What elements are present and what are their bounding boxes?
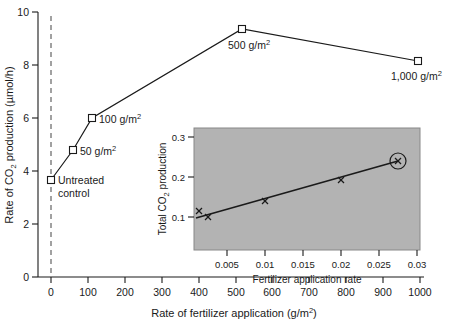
x-tick-label-700: 700: [300, 286, 318, 298]
data-point-label-50-text: 50 g/m: [80, 145, 112, 157]
inset-plot: 0.3 0.2 0.1 0.005 0.01 0.015 0.02 0.025 …: [157, 128, 426, 285]
y-axis-ticks: [32, 12, 38, 277]
y-tick-label-8: 8: [23, 59, 29, 71]
y-tick-label-6: 6: [23, 112, 29, 124]
data-point-label-untreated-line1: Untreated: [58, 174, 104, 186]
x-axis-title-suffix: ): [313, 307, 317, 319]
inset-x-tick-label-0005: 0.005: [215, 259, 239, 270]
x-tick-label-200: 200: [116, 286, 134, 298]
figure-container: 0 2 4 6 8 10 0 100 200: [0, 0, 460, 324]
data-point-label-1000: 1,000 g/m2: [391, 69, 442, 82]
data-point-label-500-sup: 2: [266, 38, 270, 47]
data-point-marker-1000[interactable]: [415, 58, 422, 65]
data-point-marker-untreated[interactable]: [48, 177, 55, 184]
inset-y-tick-label-02: 0.2: [172, 172, 185, 183]
data-point-label-500-text: 500 g/m: [228, 39, 266, 51]
data-point-label-500: 500 g/m2: [228, 38, 270, 51]
y-axis-title: Rate of CO2 production (µmol/h): [3, 66, 18, 223]
y-tick-label-10: 10: [17, 6, 29, 18]
data-point-label-100-text: 100 g/m: [99, 113, 137, 125]
data-point-marker-500[interactable]: [239, 26, 246, 33]
y-axis-title-rest: production (µmol/h): [3, 66, 15, 164]
chart-svg: 0 2 4 6 8 10 0 100 200: [0, 0, 460, 324]
data-point-marker-100[interactable]: [89, 115, 96, 122]
y-tick-label-4: 4: [23, 165, 29, 177]
y-tick-label-0: 0: [23, 271, 29, 283]
inset-x-tick-label-0015: 0.015: [291, 259, 315, 270]
data-point-label-1000-text: 1,000 g/m: [391, 70, 438, 82]
inset-y-axis-title-rest: production: [157, 143, 168, 192]
y-tick-label-2: 2: [23, 218, 29, 230]
inset-y-axis-title: Total CO2 production: [157, 143, 171, 236]
x-tick-label-0: 0: [48, 286, 54, 298]
x-axis-title-main: Rate of fertilizer application (g/m: [151, 307, 309, 319]
inset-y-tick-label-03: 0.3: [172, 132, 185, 143]
inset-x-tick-label-003: 0.03: [408, 259, 427, 270]
data-point-label-1000-sup: 2: [438, 69, 442, 78]
data-point-label-100: 100 g/m2: [99, 112, 141, 125]
x-tick-label-100: 100: [79, 286, 97, 298]
x-tick-label-900: 900: [374, 286, 392, 298]
inset-x-ticks: [227, 250, 417, 256]
x-tick-label-400: 400: [190, 286, 208, 298]
data-point-label-untreated-line2: control: [58, 187, 90, 199]
data-point-label-50: 50 g/m2: [80, 144, 116, 157]
x-tick-label-300: 300: [153, 286, 171, 298]
x-tick-label-1000: 1000: [408, 286, 432, 298]
inset-x-tick-label-002: 0.02: [332, 259, 351, 270]
data-point-label-50-sup: 2: [112, 144, 116, 153]
inset-y-axis-title-main: Total CO: [157, 196, 168, 235]
data-point-label-100-sup: 2: [137, 112, 141, 121]
inset-x-tick-label-0025: 0.025: [367, 259, 391, 270]
x-tick-label-800: 800: [337, 286, 355, 298]
inset-x-tick-label-001: 0.01: [256, 259, 275, 270]
inset-y-tick-label-01: 0.1: [172, 212, 185, 223]
x-axis-title: Rate of fertilizer application (g/m2): [151, 306, 317, 319]
inset-y-ticks: [188, 137, 194, 217]
data-point-marker-50[interactable]: [70, 147, 77, 154]
x-tick-label-600: 600: [263, 286, 281, 298]
inset-x-axis-title: Fertilizer application rate: [253, 274, 362, 285]
x-axis-ticks: [51, 277, 420, 283]
inset-panel-background: [194, 128, 420, 250]
x-tick-label-500: 500: [227, 286, 245, 298]
y-axis-title-main: Rate of CO: [3, 168, 15, 223]
